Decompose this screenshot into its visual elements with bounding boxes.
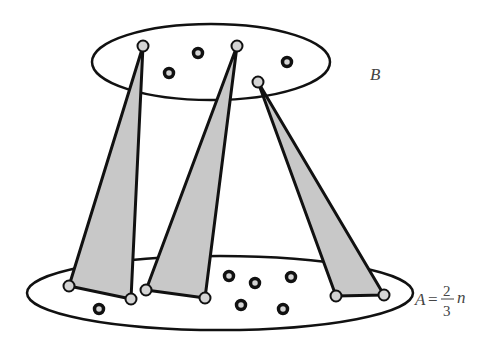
- bipartite-set-diagram: B A = 2 3 n: [0, 0, 497, 344]
- top-dark-node: [283, 58, 292, 67]
- triangle-2: [146, 46, 237, 298]
- set-a-label: A = 2 3 n: [414, 283, 466, 319]
- set-a-suffix: n: [457, 288, 466, 307]
- triangle-3: [258, 82, 384, 296]
- bottom-light-node: [200, 293, 211, 304]
- set-a-numerator: 2: [443, 283, 451, 299]
- bottom-dark-node: [251, 279, 260, 288]
- bottom-light-node: [379, 290, 390, 301]
- top-dark-node: [194, 49, 203, 58]
- set-a-var: A: [414, 290, 426, 309]
- bottom-light-node: [331, 291, 342, 302]
- top-light-node: [138, 41, 149, 52]
- bottom-dark-node: [95, 305, 104, 314]
- set-b-label: B: [370, 65, 381, 84]
- top-light-node: [253, 77, 264, 88]
- set-a-denominator: 3: [443, 303, 451, 319]
- top-light-node: [232, 41, 243, 52]
- bottom-dark-node: [279, 305, 288, 314]
- bottom-dark-node: [287, 273, 296, 282]
- triangle-1: [69, 46, 143, 299]
- bottom-light-node: [141, 285, 152, 296]
- bottom-light-node: [64, 281, 75, 292]
- bottom-light-node: [126, 294, 137, 305]
- top-dark-node: [165, 69, 174, 78]
- bottom-dark-node: [225, 272, 234, 281]
- top-set-ellipse: [92, 24, 330, 100]
- set-a-equals: =: [428, 290, 438, 309]
- bottom-dark-node: [237, 301, 246, 310]
